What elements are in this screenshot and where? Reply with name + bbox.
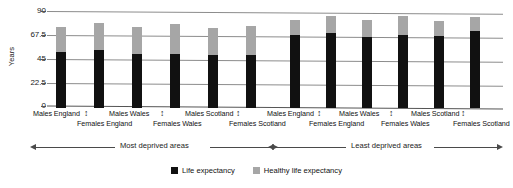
deprivation-band-least-label: Least deprived areas <box>351 141 422 150</box>
y-tick-mark-90 <box>41 11 46 12</box>
bar-segment-life-expectancy <box>208 55 218 108</box>
bar-4 <box>208 28 218 108</box>
x-axis-label-0: Males England <box>33 109 80 118</box>
bar-3 <box>170 24 180 108</box>
bar-segment-life-expectancy <box>326 33 336 108</box>
bar-segment-healthy-life-expectancy <box>208 28 218 55</box>
bar-segment-healthy-life-expectancy <box>290 20 300 35</box>
deprivation-band-most-label: Most deprived areas <box>120 141 189 150</box>
y-axis: 90 67.5 45 22.5 0 <box>0 0 46 188</box>
legend-label: Life expectancy <box>182 166 235 175</box>
bar-segment-life-expectancy <box>398 35 408 108</box>
bar-5 <box>246 26 256 108</box>
bar-segment-life-expectancy <box>246 55 256 108</box>
band-line-left <box>35 147 115 148</box>
legend-item-healthy-life-expectancy: Healthy life expectancy <box>253 166 342 175</box>
bar-segment-life-expectancy <box>132 54 142 108</box>
x-axis-label-9: Females Wales <box>381 119 430 128</box>
bar-2 <box>132 27 142 108</box>
bar-0 <box>56 27 66 108</box>
bar-segment-life-expectancy <box>434 36 444 108</box>
life-expectancy-bar-chart: Years 90 67.5 45 22.5 0 Males EnglandFem… <box>0 0 513 188</box>
x-axis-label-3: Females Wales <box>153 119 202 128</box>
y-tick-label-45: 45 <box>6 55 46 63</box>
y-tick-mark-0 <box>41 106 46 107</box>
bar-10 <box>434 21 444 108</box>
y-tick-label-67-5: 67.5 <box>6 31 46 39</box>
pair-updown-arrow-icon: ↕ <box>236 108 240 118</box>
deprivation-band-most: Most deprived areas <box>30 141 278 155</box>
pair-updown-arrow-icon: ↕ <box>389 108 393 118</box>
chart-legend: Life expectancy Healthy life expectancy <box>0 166 513 175</box>
plot-area <box>47 8 503 108</box>
bar-segment-life-expectancy <box>362 37 372 108</box>
legend-swatch-icon <box>253 167 260 174</box>
bar-7 <box>326 16 336 108</box>
bar-9 <box>398 16 408 108</box>
x-axis-label-1: Females England <box>77 119 132 128</box>
gridline-90 <box>47 11 503 15</box>
bar-1 <box>94 23 104 108</box>
bar-8 <box>362 20 372 108</box>
x-axis-labels: Males EnglandFemales EnglandMales WalesF… <box>0 108 513 134</box>
bar-segment-healthy-life-expectancy <box>246 26 256 55</box>
y-tick-mark-67-5 <box>41 35 46 36</box>
bar-segment-life-expectancy <box>170 54 180 108</box>
y-tick-label-90: 90 <box>6 7 46 15</box>
bar-segment-life-expectancy <box>470 31 480 108</box>
x-axis-label-7: Females England <box>309 119 364 128</box>
bar-segment-life-expectancy <box>94 50 104 108</box>
bar-segment-healthy-life-expectancy <box>362 20 372 37</box>
bar-segment-healthy-life-expectancy <box>434 21 444 37</box>
band-line-right <box>434 147 497 148</box>
x-axis-label-10: Males Scotland <box>411 109 459 118</box>
y-tick-mark-22-5 <box>41 83 46 84</box>
x-axis-label-11: Females Scotland <box>453 119 510 128</box>
pair-updown-arrow-icon: ↕ <box>84 108 88 118</box>
band-line-left <box>273 147 346 148</box>
bar-segment-healthy-life-expectancy <box>326 16 336 33</box>
x-axis-label-5: Females Scotland <box>229 119 286 128</box>
y-tick-mark-45 <box>41 59 46 60</box>
pair-updown-arrow-icon: ↕ <box>160 108 164 118</box>
pair-updown-arrow-icon: ↕ <box>317 108 321 118</box>
bar-segment-healthy-life-expectancy <box>170 24 180 53</box>
bar-segment-healthy-life-expectancy <box>132 27 142 53</box>
y-tick-label-22-5: 22.5 <box>6 79 46 87</box>
bar-segment-healthy-life-expectancy <box>94 23 104 50</box>
bar-segment-healthy-life-expectancy <box>56 27 66 53</box>
band-line-right <box>210 147 272 148</box>
pair-updown-arrow-icon: ↕ <box>461 108 465 118</box>
bar-6 <box>290 20 300 108</box>
arrow-right-icon <box>497 144 503 150</box>
deprivation-band-least: Least deprived areas <box>268 141 503 155</box>
bar-segment-healthy-life-expectancy <box>398 16 408 35</box>
x-axis-label-2: Males Wales <box>109 109 149 118</box>
x-axis-label-6: Males England <box>267 109 314 118</box>
bar-segment-life-expectancy <box>56 52 66 108</box>
bar-segment-healthy-life-expectancy <box>470 17 480 31</box>
bar-segment-life-expectancy <box>290 35 300 108</box>
x-axis-label-8: Males Wales <box>339 109 379 118</box>
legend-item-life-expectancy: Life expectancy <box>171 166 235 175</box>
x-axis-label-4: Males Scotland <box>185 109 233 118</box>
legend-swatch-icon <box>171 167 178 174</box>
legend-label: Healthy life expectancy <box>264 166 342 175</box>
bar-11 <box>470 17 480 108</box>
